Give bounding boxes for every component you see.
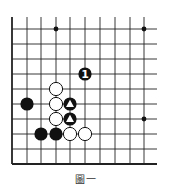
star-point-icon xyxy=(142,27,147,32)
white-stone-icon xyxy=(49,97,62,110)
black-stone-icon xyxy=(20,97,33,110)
white-stone-icon xyxy=(49,82,62,95)
star-point-icon xyxy=(54,27,59,32)
figure-caption: 圖一 xyxy=(0,171,172,186)
white-stone-icon xyxy=(49,112,62,125)
star-point-icon xyxy=(142,117,147,122)
black-stone-icon xyxy=(34,127,47,140)
move-number-label: 1 xyxy=(81,68,89,81)
white-stone-icon xyxy=(78,127,91,140)
white-stone-icon xyxy=(63,127,76,140)
go-board-diagram: 1 xyxy=(0,0,172,170)
black-stone-icon xyxy=(49,127,62,140)
